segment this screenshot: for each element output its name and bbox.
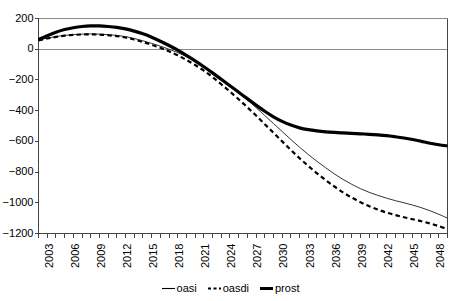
chart-container: 2000−200−400−600−800−1000−1200 200320062… — [0, 0, 461, 301]
series-line-oasdi — [39, 34, 448, 229]
y-tick-label: −800 — [9, 165, 34, 177]
x-tick-label: 2003 — [43, 243, 55, 267]
y-tick-label: −200 — [9, 73, 34, 85]
y-tick-label: 200 — [15, 12, 33, 24]
x-tick-label: 2021 — [199, 243, 211, 267]
x-tick-label: 2036 — [330, 243, 342, 267]
legend-label-prost: prost — [275, 283, 299, 294]
legend-item-oasdi[interactable]: oasdi — [208, 283, 249, 294]
legend-swatch-oasdi-icon — [208, 285, 221, 292]
x-tick-label: 2024 — [225, 243, 237, 267]
y-tick-label: −400 — [9, 104, 34, 116]
chart-axes — [35, 19, 448, 238]
chart-legend: oasioasdiprost — [0, 279, 461, 297]
x-tick-label: 2042 — [382, 243, 394, 267]
x-tick-label: 2033 — [304, 243, 316, 267]
y-tick-label: −1000 — [3, 196, 34, 208]
chart-series — [39, 26, 448, 229]
x-tick-label: 2015 — [147, 243, 159, 267]
legend-label-oasdi: oasdi — [223, 283, 249, 294]
series-line-prost — [39, 26, 448, 146]
legend-swatch-oasi-icon — [162, 285, 175, 292]
x-tick-label: 2009 — [95, 243, 107, 267]
legend-label-oasi: oasi — [177, 283, 197, 294]
series-line-oasi — [39, 34, 448, 218]
x-tick-label: 2018 — [173, 243, 185, 267]
x-tick-label: 2030 — [277, 243, 289, 267]
x-tick-label: 2045 — [408, 243, 420, 267]
x-tick-label: 2006 — [69, 243, 81, 267]
y-tick-label: 0 — [27, 42, 33, 54]
x-tick-label: 2012 — [121, 243, 133, 267]
x-tick-label: 2048 — [434, 243, 446, 267]
legend-item-oasi[interactable]: oasi — [162, 283, 197, 294]
legend-item-prost[interactable]: prost — [260, 283, 299, 294]
y-tick-label: −1200 — [3, 227, 34, 239]
y-tick-label: −600 — [9, 134, 34, 146]
x-tick-label: 2039 — [356, 243, 368, 267]
x-tick-label: 2027 — [251, 243, 263, 267]
legend-swatch-prost-icon — [260, 285, 273, 292]
